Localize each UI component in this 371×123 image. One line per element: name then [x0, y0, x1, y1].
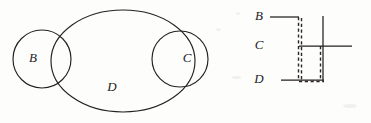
circle-b — [13, 30, 71, 88]
venn-diagram-panel: B C D — [13, 10, 208, 112]
venn-label-b: B — [29, 50, 37, 65]
circle-c — [152, 31, 208, 87]
venn-label-c: C — [183, 50, 192, 65]
ellipse-d — [51, 10, 195, 112]
interval-label-b: B — [255, 8, 263, 23]
figure-canvas: B C D B C D — [0, 0, 371, 123]
interval-label-d: D — [253, 71, 264, 86]
figure-page: B C D B C D — [0, 0, 371, 123]
interval-label-c: C — [255, 37, 264, 52]
interval-diagram-panel: B C D — [253, 8, 352, 86]
venn-label-d: D — [106, 79, 117, 94]
